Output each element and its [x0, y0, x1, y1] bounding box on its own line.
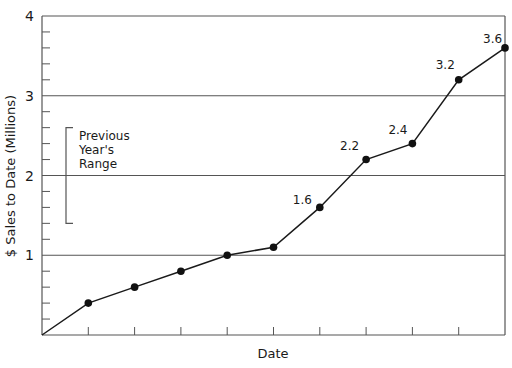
data-labels: 1.62.22.43.23.6: [293, 32, 502, 208]
data-point: [455, 76, 463, 84]
data-point: [177, 267, 185, 275]
y-tick-label: 1: [25, 247, 34, 263]
data-label: 1.6: [293, 193, 312, 207]
y-tick-label: 4: [25, 8, 34, 24]
y-axis-label: $ Sales to Date (Millions): [3, 95, 18, 257]
data-point: [270, 243, 278, 251]
data-point: [362, 156, 370, 164]
bracket-label: Previous: [79, 129, 130, 143]
x-axis-ticks: [88, 327, 458, 335]
data-point: [85, 299, 93, 307]
y-tick-label: 3: [25, 88, 34, 104]
data-point: [501, 44, 509, 52]
x-axis-label: Date: [257, 346, 288, 361]
sales-line: [42, 44, 509, 335]
data-point: [316, 204, 324, 212]
series-polyline: [42, 48, 505, 335]
data-point: [131, 283, 139, 291]
sales-chart: 1234 PreviousYear'sRange 1.62.22.43.23.6…: [0, 0, 512, 368]
y-axis-ticks: 1234: [25, 8, 50, 319]
bracket-label: Year's: [78, 143, 114, 157]
data-label: 2.2: [340, 139, 359, 153]
data-label: 3.6: [483, 32, 502, 46]
bracket-label: Range: [79, 157, 117, 171]
y-tick-label: 2: [25, 168, 34, 184]
data-point: [223, 251, 231, 259]
data-label: 2.4: [388, 123, 407, 137]
data-point: [409, 140, 417, 148]
data-label: 3.2: [436, 58, 455, 72]
